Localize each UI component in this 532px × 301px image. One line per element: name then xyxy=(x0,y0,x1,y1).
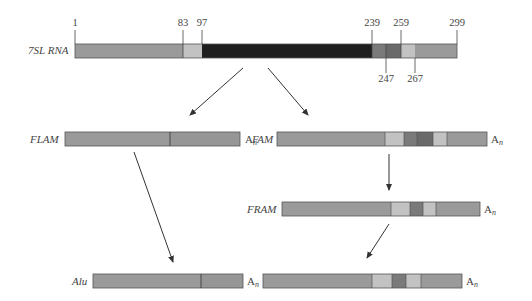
arrow-to-fam xyxy=(268,68,308,115)
label-flam: FLAM xyxy=(30,134,59,145)
arrow-to-flam xyxy=(190,68,243,115)
fam-polya-tail: An xyxy=(491,134,503,147)
alu-internal-polya: An xyxy=(247,276,259,289)
position-239: 239 xyxy=(364,18,380,29)
label-alu: Alu xyxy=(72,276,87,287)
position-267: 267 xyxy=(407,74,423,85)
position-1: 1 xyxy=(72,18,77,29)
alu-left-monomer xyxy=(93,274,243,288)
alu-right-monomer xyxy=(263,274,462,288)
position-97: 97 xyxy=(197,18,208,29)
position-259: 259 xyxy=(393,18,409,29)
flam-bar xyxy=(65,132,240,146)
position-83: 83 xyxy=(178,18,189,29)
7sl-rna-bar xyxy=(75,30,457,73)
label-fram: FRAM xyxy=(247,204,276,215)
alu-evolution-diagram xyxy=(0,0,532,301)
label-7sl-rna: 7SL RNA xyxy=(28,45,68,56)
position-247: 247 xyxy=(378,74,394,85)
fram-polya-tail: An xyxy=(484,204,496,217)
arrow-flam-to-alu xyxy=(134,152,173,262)
arrow-fram-to-alu xyxy=(367,224,389,258)
alu-polya-tail: An xyxy=(466,276,478,289)
position-299: 299 xyxy=(449,18,465,29)
fam-bar xyxy=(277,132,487,146)
fram-bar xyxy=(282,202,480,216)
label-fam: FAM xyxy=(252,134,273,145)
